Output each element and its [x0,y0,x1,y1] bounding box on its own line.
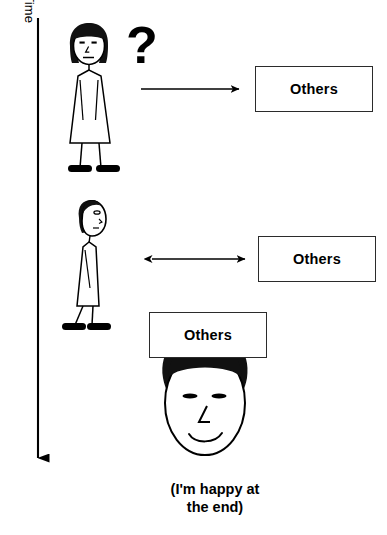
caption: (I'm happy at the end) [108,480,322,516]
shoe-left [68,165,92,172]
eye-right [92,42,97,44]
eye-left [80,42,85,44]
caption-line-2: the end) [108,498,322,516]
eye-right-closeup [212,393,227,398]
stick-figure-stage-2 [62,200,111,330]
leg-right [99,143,101,168]
others-box-stage-3: Others [149,312,267,358]
shoe-left-side [62,323,86,330]
others-box-label: Others [184,327,232,343]
shoe-right [96,165,120,172]
diagram-canvas: Time ? Others Others Others [0,0,387,535]
stick-figure-stage-1 [68,23,120,172]
leg-right-side [92,306,93,325]
eye-left-closeup [183,393,198,398]
leg-left-side [75,306,83,325]
shoe-right-side [87,323,111,330]
leg-left [80,143,82,168]
drawing-layer [0,0,387,535]
caption-line-1: (I'm happy at [108,480,322,498]
dress [70,70,110,143]
